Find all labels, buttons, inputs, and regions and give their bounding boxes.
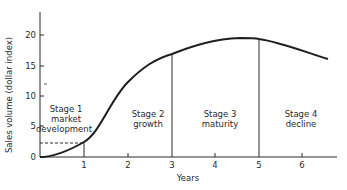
svg-text:development: development <box>36 124 93 134</box>
svg-text:Stage 2: Stage 2 <box>132 109 165 119</box>
y-tick-label: 20 <box>25 30 36 40</box>
svg-text:Stage 1: Stage 1 <box>50 104 83 114</box>
svg-text:Stage 4: Stage 4 <box>285 109 318 119</box>
svg-text:maturity: maturity <box>202 119 238 129</box>
x-tick-labels: 1 2 3 4 5 6 <box>81 160 304 170</box>
x-tick-label: 4 <box>212 160 217 170</box>
svg-text:market: market <box>51 114 82 124</box>
y-tick-label: 10 <box>25 91 36 101</box>
y-tick-label: 15 <box>25 61 36 71</box>
y-tick-label: 0 <box>31 152 36 162</box>
x-tick-label: 1 <box>81 160 86 170</box>
x-tick-label: 3 <box>169 160 174 170</box>
svg-text:Stage 3: Stage 3 <box>204 109 237 119</box>
x-tick-label: 6 <box>299 160 304 170</box>
stage-4-label: Stage 4 decline <box>285 109 318 129</box>
stage-2-label: Stage 2 growth <box>132 109 165 129</box>
y-tick-labels: 0 5 10 15 20 <box>25 30 36 162</box>
svg-text:growth: growth <box>133 119 163 129</box>
y-axis-label: Sales volume (dollar index) <box>4 37 14 153</box>
product-life-cycle-chart: 0 5 10 15 20 1 2 3 4 5 6 Years Sales vol… <box>0 0 347 190</box>
stage-1-label: Stage 1 market development <box>36 104 93 134</box>
y-ticks <box>40 35 44 157</box>
chart-svg: 0 5 10 15 20 1 2 3 4 5 6 Years Sales vol… <box>0 0 347 190</box>
x-ticks <box>128 153 302 157</box>
x-tick-label: 5 <box>256 160 261 170</box>
x-tick-label: 2 <box>125 160 130 170</box>
sales-curve <box>40 38 328 157</box>
stage-3-label: Stage 3 maturity <box>202 109 238 129</box>
svg-text:decline: decline <box>286 119 317 129</box>
x-axis-label: Years <box>176 173 200 183</box>
